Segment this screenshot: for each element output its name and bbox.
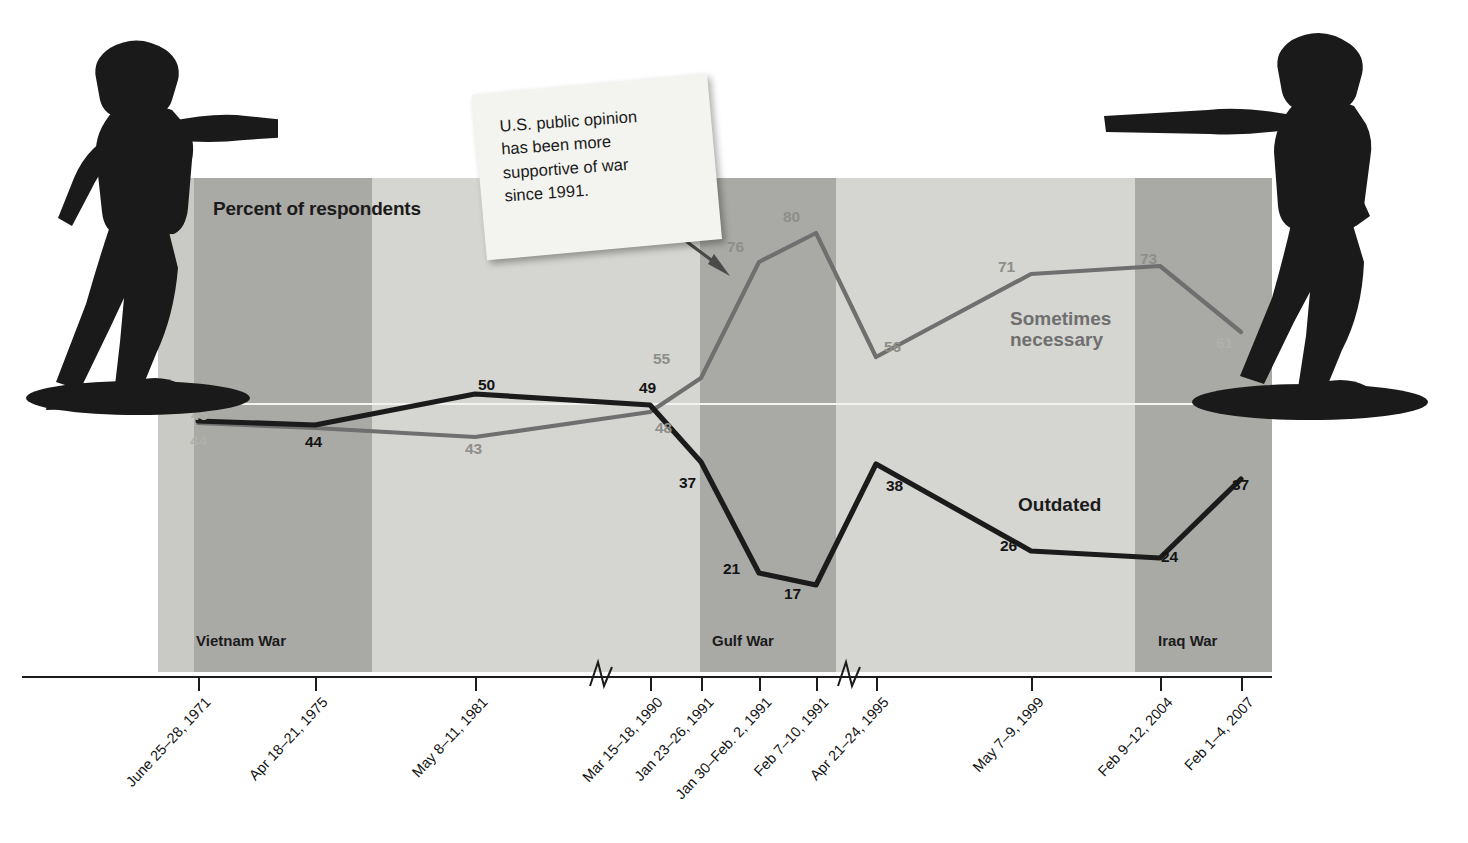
value-label-outdated-6: 17 — [784, 585, 801, 603]
callout-line-4: since 1991. — [504, 181, 589, 205]
x-tick-5 — [759, 678, 761, 691]
band-gap-2 — [836, 178, 1135, 672]
value-label-outdated-4: 37 — [679, 474, 696, 492]
x-tick-label-8: May 7–9, 1999 — [970, 694, 1047, 775]
callout-line-3: supportive of war — [502, 155, 629, 182]
x-tick-label-1: Apr 18–21, 1975 — [246, 694, 331, 783]
x-axis-line — [22, 676, 1272, 678]
callout-note: U.S. public opinion has been more suppor… — [472, 74, 722, 261]
callout-note-text: U.S. public opinion has been more suppor… — [499, 101, 697, 208]
x-tick-8 — [1031, 678, 1033, 691]
soldier-left-silhouette — [18, 18, 278, 418]
series-label-outdated: Outdated — [1018, 494, 1101, 515]
value-label-sometimes-necessary-7: 71 — [998, 258, 1015, 276]
chart-figure: Percent of respondents Vietnam War Gulf … — [0, 0, 1468, 843]
x-tick-2 — [475, 678, 477, 691]
value-label-outdated-5: 21 — [723, 560, 740, 578]
value-label-sometimes-necessary-3: 55 — [653, 350, 670, 368]
value-label-sometimes-necessary-4: 76 — [727, 238, 744, 256]
x-tick-3 — [650, 678, 652, 691]
value-label-outdated-1: 44 — [305, 433, 322, 451]
x-tick-1 — [315, 678, 317, 691]
soldier-right-silhouette — [1096, 14, 1436, 424]
war-band-label-vietnam: Vietnam War — [196, 632, 286, 649]
x-tick-label-9: Feb 9–12, 2004 — [1095, 694, 1176, 779]
x-tick-0 — [198, 678, 200, 691]
war-band-label-gulf: Gulf War — [712, 632, 774, 649]
war-band-label-iraq: Iraq War — [1158, 632, 1217, 649]
value-label-outdated-10: 37 — [1232, 476, 1249, 494]
x-tick-label-10: Feb 1–4, 2007 — [1181, 694, 1256, 773]
value-label-outdated-3: 49 — [639, 379, 656, 397]
x-tick-label-0: June 25–28, 1971 — [123, 694, 214, 790]
value-label-outdated-9: 24 — [1161, 548, 1178, 566]
x-tick-10 — [1241, 678, 1243, 691]
value-label-sometimes-necessary-2: 48 — [655, 419, 672, 437]
value-label-outdated-0: 44 — [190, 432, 207, 450]
value-label-sometimes-necessary-5: 80 — [783, 208, 800, 226]
band-gulf-war — [700, 178, 836, 672]
x-tick-4 — [701, 678, 703, 691]
x-tick-label-2: May 8–11, 1981 — [409, 694, 491, 780]
value-label-outdated-2: 50 — [478, 376, 495, 394]
value-label-sometimes-necessary-1: 43 — [465, 440, 482, 458]
series-label-line-2: necessary — [1010, 329, 1103, 350]
value-label-sometimes-necessary-6: 56 — [884, 338, 901, 356]
x-tick-6 — [816, 678, 818, 691]
callout-line-2: has been more — [501, 132, 612, 158]
value-label-outdated-7: 38 — [886, 477, 903, 495]
x-tick-7 — [876, 678, 878, 691]
value-label-outdated-8: 26 — [1000, 537, 1017, 555]
callout-line-1: U.S. public opinion — [499, 107, 638, 135]
x-tick-label-5: Jan 30–Feb. 2, 1991 — [672, 694, 774, 802]
x-tick-9 — [1160, 678, 1162, 691]
